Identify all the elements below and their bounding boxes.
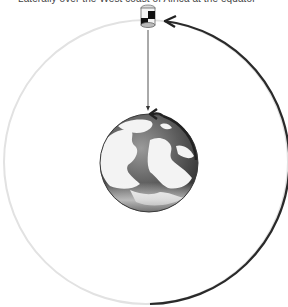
orbit-diagram bbox=[0, 0, 288, 307]
earth-globe bbox=[99, 109, 198, 212]
satellite-icon bbox=[141, 5, 155, 28]
down-arrow-icon bbox=[146, 106, 150, 111]
signal-line bbox=[146, 30, 150, 111]
